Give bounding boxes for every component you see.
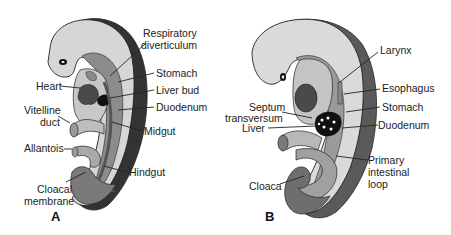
embryo-b-esophagus [338,82,342,104]
label-duct: duct [40,116,60,128]
panel-label-b: B [265,209,274,224]
label-respiratory: Respiratory [143,27,197,39]
label-esophagus: Esophagus [382,82,435,94]
liver-speckle [333,121,336,124]
embryo-a-allantois-stump [72,147,78,157]
label-larynx: Larynx [380,44,412,56]
label-liver-bud: Liver bud [156,84,199,96]
embryo-a: a.d. [48,19,147,210]
label-stomach-b: Stomach [382,101,424,113]
embryo-b-stalk-stump [278,135,288,151]
label-loop: loop [368,178,388,190]
embryo-b-heart [295,84,317,112]
liver-speckle [327,117,330,120]
embryo-gut-diagram: a.d. Respiratory diverticulum Heart Stom… [0,0,451,235]
label-cloaca: Cloaca [249,180,282,192]
liver-speckle [321,119,324,122]
label-intestinal: intestinal [368,166,409,178]
leader-liver [268,126,316,128]
embryo-a-vitelline-stump [70,123,78,137]
artist-signature: a.d. [108,188,116,193]
label-allantois: Allantois [24,142,64,154]
label-cloacal: Cloacal [37,183,72,195]
label-primary: Primary [368,154,405,166]
label-duodenum-b: Duodenum [378,119,430,131]
liver-speckle [323,126,326,129]
label-vitelline: Vitelline [24,104,61,116]
label-liver: Liver [242,122,265,134]
embryo-a-eye-highlight [61,61,64,63]
liver-speckle [330,128,333,131]
embryo-b-eye-highlight [282,75,284,79]
panel-label-a: A [51,209,61,224]
label-heart: Heart [36,80,62,92]
label-hindgut: Hindgut [129,166,165,178]
label-midgut: Midgut [144,125,176,137]
embryo-a-heart [78,85,98,105]
label-membrane: membrane [24,195,74,207]
liver-speckle [318,123,320,125]
label-duodenum-a: Duodenum [156,101,208,113]
label-stomach-a: Stomach [156,67,198,79]
label-diverticulum: diverticulum [141,39,197,51]
